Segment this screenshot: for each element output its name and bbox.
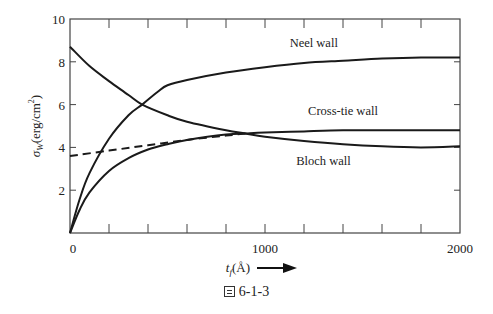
series-cross-tie-dashed-extension (70, 134, 246, 157)
series-cross-tie-wall (70, 130, 460, 233)
x-tick-label: 1000 (252, 241, 278, 256)
x-axis-title: tf(Å) (226, 260, 297, 277)
figure-glyph-icon (224, 286, 235, 297)
y-tick-label: 2 (59, 183, 66, 198)
svg-text:tf(Å): tf(Å) (226, 260, 250, 277)
axis-ticks (70, 19, 460, 233)
line-chart: 010002000246810 Neel wallCross-tie wallB… (0, 0, 493, 314)
label-cross-tie-wall: Cross-tie wall (308, 104, 378, 118)
y-tick-label: 10 (52, 12, 65, 27)
y-tick-label: 6 (59, 98, 66, 113)
label-bloch-wall: Bloch wall (296, 154, 351, 168)
x-tick-label: 0 (70, 241, 77, 256)
y-axis-unit: (erg/cm (28, 103, 43, 143)
arrow-right-icon (257, 263, 297, 273)
curve-labels: Neel wallCross-tie wallBloch wall (290, 36, 379, 168)
label-neel-wall: Neel wall (290, 36, 339, 50)
figure-number: 6-1-3 (239, 284, 269, 299)
y-axis-title: σW(erg/cm2) (27, 95, 45, 157)
x-tick-label: 2000 (447, 241, 473, 256)
plot-border (70, 19, 460, 233)
y-tick-label: 8 (59, 55, 66, 70)
y-tick-label: 4 (59, 140, 66, 155)
figure-caption: 6-1-3 (0, 284, 493, 300)
x-axis-unit: (Å) (232, 260, 250, 275)
plot-frame (70, 19, 460, 233)
tick-labels: 010002000246810 (52, 12, 473, 256)
data-series (70, 47, 460, 233)
y-axis-unit-close: ) (28, 95, 43, 99)
svg-text:σW(erg/cm2): σW(erg/cm2) (27, 95, 45, 157)
series-neel-wall (70, 57, 460, 233)
